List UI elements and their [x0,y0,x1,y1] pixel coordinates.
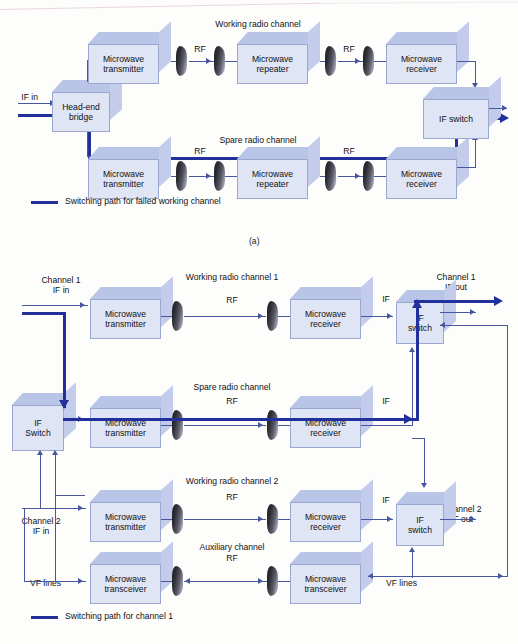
arrow-b-rx1-into-switch [387,313,392,319]
bold-path-b-up [416,305,419,421]
label-channel1-if-in: Channel 1 IF in [41,275,80,296]
antenna-dish-b1 [172,301,183,331]
bold-path-b-in [22,312,66,315]
line-b-rxspare-out [361,425,413,426]
label-b-rf3: RF [226,492,237,502]
line-b-vf-left-up [24,508,25,582]
antenna-dish-b8 [267,566,278,596]
antenna-dish-a3 [325,46,336,76]
label-working-radio-channel-1: Working radio channel 1 [186,272,279,282]
label-b-spare-radio-channel: Spare radio channel [194,382,271,392]
arrow-b-spare-into-switch2 [421,483,427,488]
antenna-dish-b6 [267,504,278,534]
line-b-rf2-in [278,425,290,426]
arrow-a-rf3 [206,173,211,179]
antenna-dish-a6 [214,161,225,191]
antenna-dish-a7 [325,161,336,191]
label-vf-lines-left: VF lines [30,578,61,588]
antenna-dish-b7 [172,566,183,596]
line-b-rf1 [184,316,266,317]
line-b-aux-rf-in [278,581,290,582]
label-b-if3: IF [382,495,390,505]
antenna-dish-b2 [267,301,278,331]
line-b-ch2-in [22,508,86,509]
label-auxiliary-channel: Auxiliary channel [200,542,265,552]
arrow-b-right-bus-bottom [498,573,503,579]
line-b-ch2-branch [55,495,85,496]
box-a-working-receiver: Microwave receiver [386,32,469,84]
arrow-b-rxspare-into-switch1 [409,347,415,352]
line-b-ch1-in [22,305,88,306]
line-b-rf3-in [278,519,290,520]
line-a-rf3-in [225,176,237,177]
line-a-rf2-in [374,61,386,62]
line-b-rf2 [184,425,266,426]
arrow-b-switch1-out-thin [470,309,475,315]
box-b-transceiver-right: Microwave transceiver [290,552,373,604]
arrow-b-ch2-into-tx2 [78,505,83,511]
line-a-rf1-in [225,61,237,62]
arrow-b-ch1-into-tx1 [80,302,85,308]
legend-b-text: Switching path for channel 1 [65,611,173,621]
arrow-b-switch2-out [470,516,475,522]
bold-path-b-out [414,300,499,303]
arrow-b-ch2-into-switchleft-b [52,450,58,455]
antenna-dish-a1 [176,46,187,76]
box-b-rx-spare: Microwave receiver [290,396,373,448]
bold-arrow-a-out [500,113,509,123]
arrow-a-rf2 [355,58,360,64]
scan-artifact [0,3,320,10]
arrow-b-rx2-into-switch2 [387,516,392,522]
box-b-transceiver-left: Microwave transceiver [90,552,173,604]
bold-path-b-down [63,312,66,408]
antenna-dish-a4 [363,46,374,76]
line-b-rf3 [184,519,266,520]
label-b-rf4: RF [226,553,237,563]
line-b-spare-branch [412,438,425,439]
box-b-rx-working2: Microwave receiver [290,490,373,542]
scan-artifact-2 [300,1,518,4]
arrow-b-aux-into-switch2 [409,547,415,552]
box-b-tx-working2: Microwave transmitter [90,490,173,542]
arrow-a-switch-out [502,105,507,111]
box-a-working-transmitter: Microwave transmitter [88,32,171,84]
box-b-rx-working1: Microwave receiver [290,287,373,339]
line-b-aux-rf [184,581,268,582]
label-spare-radio-channel: Spare radio channel [220,135,297,145]
label-if-in: IF in [21,92,38,102]
legend-a-swatch [31,201,58,204]
box-a-working-repeater: Microwave repeater [237,32,320,84]
bold-arrow-b-out [494,296,503,306]
label-b-rf2: RF [226,396,237,406]
bold-path-b-spare-row [63,418,419,421]
antenna-dish-a2 [214,46,225,76]
label-b-if1: IF [382,294,390,304]
antenna-dish-b3 [172,410,183,440]
line-b-spare-to-switch2 [424,438,425,486]
box-a-if-switch: IF switch [423,87,501,139]
arrow-b-vf-left-into-tcvr [78,578,83,584]
box-b-tx-spare: Microwave transmitter [90,396,173,448]
box-b-tx-working1: Microwave transmitter [90,287,173,339]
legend-a-text: Switching path for failed working channe… [65,196,221,206]
line-b-rf1-in [278,316,290,317]
antenna-dish-a8 [363,161,374,191]
line-a-rx2-out [457,167,476,168]
arrow-b-switch1-feedback [440,322,445,328]
label-a-rf2: RF [343,44,354,54]
label-working-radio-channel-2: Working radio channel 2 [186,476,279,486]
arrow-a-rf1 [206,58,211,64]
box-a-spare-transmitter: Microwave transmitter [88,147,171,199]
arrow-b-aux-rf-left [185,578,190,584]
line-b-vf-right [368,576,460,577]
label-b-if2: IF [382,396,390,406]
label-vf-lines-right: VF lines [386,578,417,588]
line-a-rx1-out [457,61,476,62]
box-head-end-bridge: Head-end bridge [52,80,122,132]
bold-arrow-b-spare-row [404,414,413,424]
line-b-ch2-up-a [40,455,41,508]
arrow-b-aux-rf-right [258,578,263,584]
antenna-dish-b4 [267,410,278,440]
label-working-radio-channel: Working radio channel [215,19,300,29]
